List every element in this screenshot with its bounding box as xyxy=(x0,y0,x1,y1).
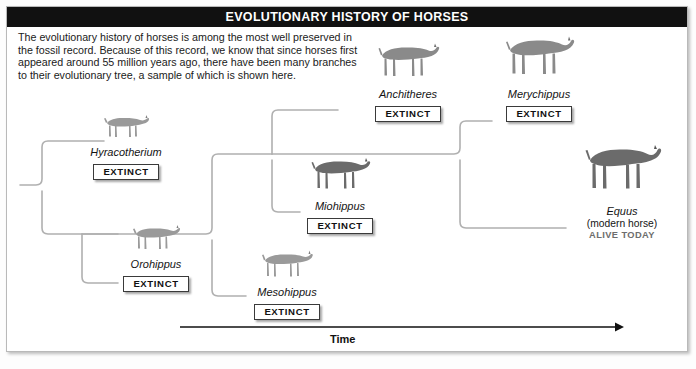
edge-to-merychippus xyxy=(272,121,492,154)
status-badge: EXTINCT xyxy=(307,218,372,234)
taxon-name: Mesohippus xyxy=(228,286,346,299)
taxon-name: Equus xyxy=(558,205,686,218)
status-badge-wrap: EXTINCT xyxy=(228,301,346,320)
taxon-name: Orohippus xyxy=(100,258,212,271)
time-arrow-head xyxy=(615,323,624,332)
horse-silhouette-hyracotherium xyxy=(98,112,154,146)
edge-to-equus xyxy=(460,160,566,228)
status-badge-wrap: EXTINCT xyxy=(280,215,400,234)
taxon-subtitle: (modern horse) xyxy=(558,218,686,230)
taxon-name: Miohippus xyxy=(280,200,400,213)
status-badge: EXTINCT xyxy=(506,106,571,122)
horse-silhouette-orohippus xyxy=(127,222,185,258)
status-badge: EXTINCT xyxy=(254,304,319,320)
taxon-miohippus[interactable]: Miohippus EXTINCT xyxy=(280,156,400,234)
status-badge: ALIVE TODAY xyxy=(558,230,686,241)
status-badge: EXTINCT xyxy=(93,164,158,180)
status-badge: EXTINCT xyxy=(375,106,440,122)
horse-silhouette-mesohippus xyxy=(256,248,318,286)
horse-silhouette-miohippus xyxy=(306,156,374,200)
taxon-anchitheres[interactable]: Anchitheres EXTINCT xyxy=(348,42,468,122)
horse-silhouette-merychippus xyxy=(501,36,577,88)
status-badge-wrap: EXTINCT xyxy=(70,161,182,180)
horse-silhouette-anchitheres xyxy=(373,42,443,88)
time-axis-label: Time xyxy=(330,333,355,345)
status-badge-wrap: EXTINCT xyxy=(100,273,212,292)
time-axis xyxy=(180,323,624,332)
taxon-name: Hyracotherium xyxy=(70,146,182,159)
taxon-name: Anchitheres xyxy=(348,88,468,101)
edge-to-anchitheres xyxy=(272,110,338,154)
status-badge: EXTINCT xyxy=(123,276,188,292)
figure-root: EVOLUTIONARY HISTORY OF HORSES The evolu… xyxy=(0,0,696,369)
taxon-equus[interactable]: Equus (modern horse) ALIVE TODAY xyxy=(558,145,686,241)
status-badge-wrap: EXTINCT xyxy=(478,103,600,122)
status-badge-wrap: EXTINCT xyxy=(348,103,468,122)
taxon-orohippus[interactable]: Orohippus EXTINCT xyxy=(100,222,212,292)
taxon-merychippus[interactable]: Merychippus EXTINCT xyxy=(478,36,600,122)
horse-silhouette-equus xyxy=(580,145,664,205)
taxon-name: Merychippus xyxy=(478,88,600,101)
taxon-mesohippus[interactable]: Mesohippus EXTINCT xyxy=(228,248,346,320)
taxon-hyracotherium[interactable]: Hyracotherium EXTINCT xyxy=(70,112,182,180)
